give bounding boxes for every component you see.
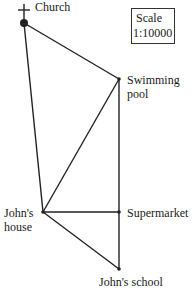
house-label: John's house (4, 206, 34, 234)
supermarket-point (117, 210, 121, 214)
scale-box: Scale 1:10000 (131, 8, 175, 44)
edge-church-pool (24, 23, 119, 79)
edge-pool-house (43, 79, 119, 212)
edge-church-house (24, 23, 43, 212)
house-point (41, 210, 45, 214)
pool-point (117, 77, 121, 81)
church-point (20, 19, 28, 27)
edge-house-school (43, 212, 119, 269)
supermarket-label: Supermarket (127, 206, 188, 220)
school-label: John's school (99, 275, 163, 289)
scale-ratio: 1:10000 (133, 26, 174, 41)
church-label: Church (35, 0, 70, 14)
school-point (117, 267, 121, 271)
scale-title: Scale (136, 11, 174, 26)
pool-label: Swimming pool (127, 73, 180, 101)
